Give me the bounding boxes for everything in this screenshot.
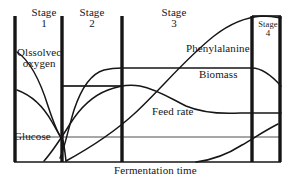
stage-3-name: Stage <box>162 6 187 18</box>
curve-label-biomass: Biomass <box>199 69 238 80</box>
stage-4-number: 4 <box>255 29 281 38</box>
dissolved-oxygen-line2: oxygen <box>17 58 61 69</box>
curve-phenylalanine <box>66 16 281 161</box>
x-axis-label: Fermentation time <box>114 165 197 176</box>
curve-unlabeled-rising <box>196 124 278 162</box>
stage-2-name: Stage <box>80 6 105 18</box>
curve-label-feed-rate: Feed rate <box>152 106 194 117</box>
stage-label-1: Stage 1 <box>22 7 66 29</box>
stage-label-2: Stage 2 <box>70 7 114 29</box>
curve-label-phenylalanine: Phenylalanine <box>186 43 250 54</box>
stage-label-4: Stage 4 <box>255 20 281 38</box>
stage-2-number: 2 <box>70 18 114 29</box>
stage-3-number: 3 <box>152 18 196 29</box>
curve-label-glucose: Glucose <box>14 131 51 142</box>
stage-label-3: Stage 3 <box>152 7 196 29</box>
stage-1-name: Stage <box>32 6 57 18</box>
curve-label-dissolved-oxygen: Olssolvec oxygen <box>17 47 61 69</box>
fermentation-stage-diagram: Stage 1 Stage 2 Stage 3 Stage 4 Olssolve… <box>0 0 294 185</box>
stage-1-number: 1 <box>22 18 66 29</box>
